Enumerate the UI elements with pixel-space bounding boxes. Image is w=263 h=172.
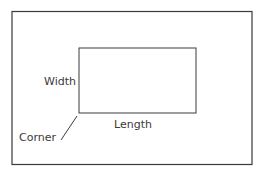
inner-rectangle bbox=[79, 48, 196, 113]
corner-pointer-line bbox=[61, 116, 77, 140]
diagram-canvas: Width Length Corner bbox=[0, 0, 263, 172]
length-label: Length bbox=[114, 118, 152, 131]
width-label: Width bbox=[44, 75, 76, 88]
corner-label: Corner bbox=[19, 131, 56, 144]
